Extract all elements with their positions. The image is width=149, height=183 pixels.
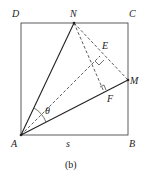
square-diagram: D N C E M F θ A s B (b) — [0, 0, 149, 183]
segment-am — [21, 80, 128, 135]
point-n — [73, 22, 76, 25]
label-c: C — [129, 8, 136, 19]
figure-caption: (b) — [65, 159, 77, 171]
segment-nf — [74, 23, 104, 92]
label-d: D — [11, 8, 20, 19]
square-abcd — [21, 23, 128, 135]
segment-an — [21, 23, 74, 135]
segment-ae — [21, 56, 100, 135]
point-a — [20, 134, 23, 137]
segment-nm — [74, 23, 128, 80]
label-n: N — [69, 8, 78, 19]
point-m — [127, 79, 130, 82]
label-theta: θ — [45, 105, 50, 116]
label-e: E — [101, 40, 108, 51]
right-angle-e — [95, 60, 104, 65]
label-f: F — [106, 93, 114, 104]
label-m: M — [129, 75, 139, 86]
label-a: A — [10, 138, 18, 149]
label-b: B — [129, 138, 135, 149]
label-s: s — [66, 138, 70, 149]
